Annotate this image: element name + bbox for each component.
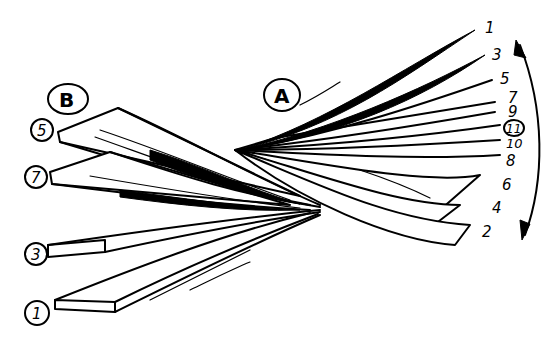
svg-text:8: 8 [506,152,516,170]
svg-text:5: 5 [37,122,47,140]
layer-b-1 [55,213,320,312]
group-b-label: B [59,88,74,112]
fan-diagram: B [0,0,560,347]
svg-text:3: 3 [31,246,41,264]
svg-text:4: 4 [492,199,502,217]
svg-text:10: 10 [506,136,523,151]
svg-text:1: 1 [32,305,42,323]
group-b: B [25,84,320,325]
svg-text:5: 5 [500,70,510,88]
group-b-layer-labels: 5 7 3 1 [25,119,53,325]
svg-text:7: 7 [31,169,41,187]
svg-text:6: 6 [502,176,512,194]
svg-text:1: 1 [485,19,495,37]
group-a-pages [235,30,500,245]
group-a-label: A [274,84,290,108]
svg-text:2: 2 [482,223,492,241]
svg-text:9: 9 [508,103,518,121]
group-a: A 1 3 5 7 9 11 10 8 6 [235,19,539,245]
svg-text:11: 11 [506,122,521,136]
svg-text:3: 3 [492,46,502,64]
